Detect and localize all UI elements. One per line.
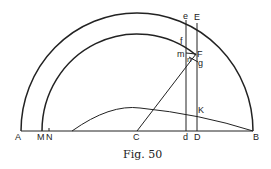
label-C: C (133, 132, 140, 142)
label-D: D (194, 132, 201, 142)
label-M: M (37, 132, 45, 142)
line-CF (137, 54, 196, 131)
geometry-diagram: A M N C d D B e E f F m n g K Fig. 50 (0, 0, 271, 169)
label-B: B (253, 132, 259, 142)
low-arc (72, 107, 253, 131)
label-e: e (183, 11, 188, 21)
label-A: A (15, 132, 21, 142)
inner-arc (42, 34, 196, 131)
label-n: n (187, 55, 191, 64)
label-g: g (198, 58, 203, 68)
figure-caption: Fig. 50 (123, 148, 162, 161)
label-f: f (180, 36, 183, 46)
outer-semicircle (21, 13, 253, 131)
label-K: K (198, 105, 204, 115)
label-m: m (177, 49, 185, 59)
label-N: N (46, 132, 53, 142)
label-d: d (183, 132, 188, 142)
label-E: E (194, 12, 200, 22)
